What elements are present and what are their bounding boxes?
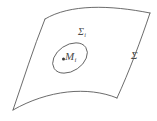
point-m-subscript: i (74, 56, 76, 63)
point-m-i-label: Mi (65, 51, 76, 64)
surface-sigma-label: Σ (131, 50, 138, 61)
surface-top-edge (45, 7, 150, 19)
subregion-sigma-subscript: i (84, 31, 86, 38)
surface-left-edge (13, 19, 45, 110)
surface-diagram-figure: Σ Σi Mi (0, 0, 157, 121)
surface-sigma-symbol: Σ (131, 49, 138, 61)
subregion-sigma-i-label: Σi (78, 27, 86, 38)
surface-patch-outline (13, 7, 150, 110)
surface-bottom-edge (13, 91, 117, 110)
point-m-symbol: M (65, 50, 74, 62)
